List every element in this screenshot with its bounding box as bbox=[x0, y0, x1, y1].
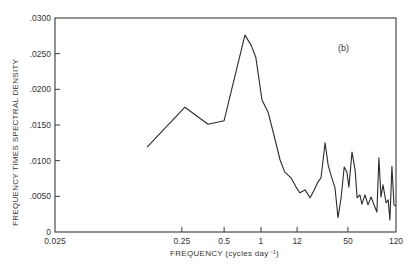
y-tick-label: .0100 bbox=[30, 156, 52, 166]
x-tick-label: 0.5 bbox=[218, 236, 230, 246]
x-tick-label: 1 bbox=[259, 236, 264, 246]
x-tick-label: 0.025 bbox=[44, 236, 66, 246]
x-tick-label: 50 bbox=[343, 236, 353, 246]
spectrum-line bbox=[147, 35, 396, 220]
spectral-density-chart: 0.0050.0100.0150.0200.0250.0300 0.0250.2… bbox=[0, 0, 416, 278]
x-tick-label: 120 bbox=[389, 236, 403, 246]
x-tick-label: 0.25 bbox=[174, 236, 191, 246]
y-tick-label: .0300 bbox=[30, 13, 52, 23]
x-axis-title: FREQUENCY (cycles day⁻¹) bbox=[170, 249, 279, 258]
y-tick-label: .0150 bbox=[30, 120, 52, 130]
x-tick-label: 12 bbox=[292, 236, 302, 246]
panel-label: (b) bbox=[338, 43, 349, 53]
y-tick-label: .0050 bbox=[30, 191, 52, 201]
y-tick-label: .0250 bbox=[30, 49, 52, 59]
y-tick-label: .0200 bbox=[30, 84, 52, 94]
y-axis-title: FREQUENCY TIMES SPECTRAL DENSITY bbox=[11, 58, 20, 226]
x-axis-ticks: 0.0250.250.511250120 bbox=[44, 227, 403, 246]
